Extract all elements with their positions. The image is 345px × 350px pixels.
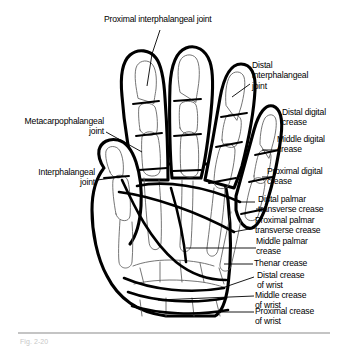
label-proximal-palmar-transverse-crease: Proximal palmar transverse crease — [255, 215, 320, 236]
label-thenar-crease: Thenar crease — [254, 258, 307, 268]
leader-proximal-palmar-transverse-crease — [233, 228, 255, 232]
label-proximal-digital-crease: Proximal digital crease — [267, 166, 323, 187]
label-distal-digital-crease: Distal digital crease — [282, 107, 326, 128]
label-proximal-crease-of-wrist: Proximal crease of wrist — [255, 306, 314, 327]
figure-caption: Fig. 2-20 — [20, 338, 48, 346]
label-interphalangeal-joint: Interphalangeal joint — [0, 167, 95, 188]
label-metacarpophalangeal-joint: Metacarpophalangeal joint — [0, 116, 104, 137]
label-distal-palmar-transverse-crease: Distal palmar transverse crease — [258, 194, 323, 215]
middle-finger-outline — [170, 47, 213, 178]
middle-proximal-digital-crease — [173, 170, 201, 171]
label-middle-palmar-crease: Middle palmar crease — [256, 236, 308, 257]
label-middle-digital-crease: Middle digital crease — [277, 134, 325, 155]
label-distal-crease-of-wrist: Distal crease of wrist — [257, 270, 304, 291]
label-distal-interphalangeal-joint: Distal interphalangeal joint — [252, 60, 308, 91]
label-proximal-interphalangeal-joint: Proximal interphalangeal joint — [104, 14, 212, 24]
hand-anatomy-figure: Proximal interphalangeal joint Distal in… — [0, 0, 345, 350]
